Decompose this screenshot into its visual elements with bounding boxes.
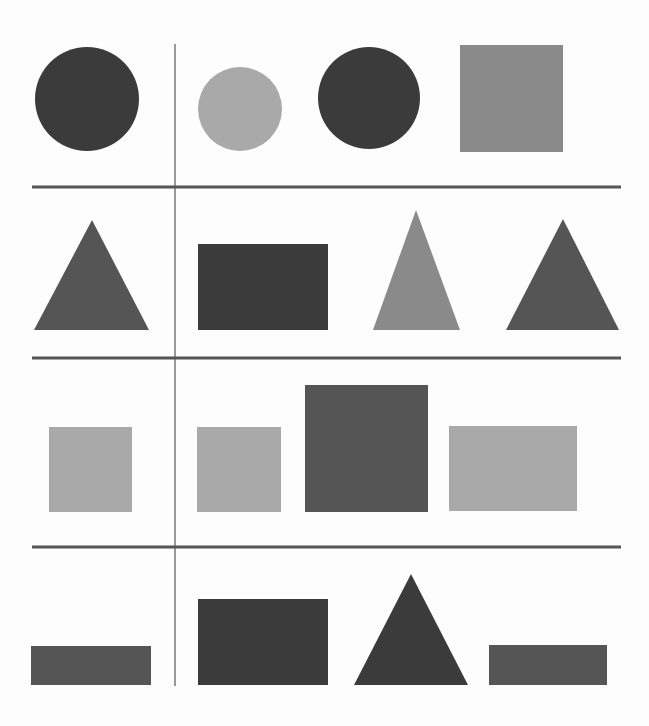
square-shape (460, 45, 563, 152)
square-shape (49, 427, 132, 512)
circle-shape (318, 47, 420, 149)
rectangle-shape (198, 599, 328, 685)
rectangle-shape (489, 645, 607, 685)
shape-grid-canvas (0, 0, 649, 726)
square-shape (305, 385, 428, 512)
rectangle-shape (31, 646, 151, 685)
rectangle-shape (198, 244, 328, 330)
rectangle-shape (449, 426, 577, 511)
circle-shape (198, 67, 282, 151)
circle-shape (35, 47, 139, 151)
square-shape (197, 427, 281, 512)
